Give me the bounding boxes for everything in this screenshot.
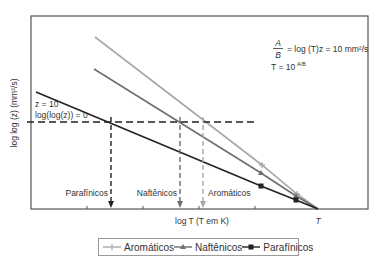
legend-label: Parafínicos: [263, 242, 313, 253]
arrow-down-icon: [177, 201, 183, 208]
square-marker-icon: [242, 243, 260, 251]
legend-item-parafinicos: Parafínicos: [242, 242, 313, 253]
x-axis-end-label: T: [315, 216, 321, 226]
legend-item-aromaticos: Aromáticos: [103, 242, 174, 253]
drop-label-aromaticos: Aromáticos: [208, 188, 251, 198]
triangle-marker-icon: [174, 243, 192, 251]
y-axis-label: log log (z) (mm²/s): [9, 78, 19, 147]
square-marker-icon: [259, 184, 264, 189]
square-marker-icon: [294, 198, 299, 203]
formula-rhs: = log (T)z = 10 mm²/s: [287, 44, 368, 54]
arrow-down-icon: [200, 201, 206, 208]
legend-label: Aromáticos: [124, 242, 174, 253]
series-line-naftenicos: [94, 69, 318, 209]
formula-T-exponent: A/B: [297, 61, 306, 67]
formula-numerator: A: [274, 38, 281, 48]
chart-svg: z = 10 log(log(z)) = 0 Parafínicos Naftê…: [0, 0, 380, 265]
formula-denominator: B: [275, 50, 281, 60]
drop-label-naftenicos: Naftênicos: [137, 188, 177, 198]
legend: Aromáticos Naftênicos Parafínicos: [98, 238, 299, 256]
plus-marker-icon: [103, 243, 121, 251]
drop-label-parafinicos: Parafínicos: [65, 188, 108, 198]
ref-label-loglog: log(log(z)) = 0: [35, 110, 88, 120]
legend-item-naftenicos: Naftênicos: [174, 242, 242, 253]
arrow-down-icon: [108, 201, 114, 208]
series-markers: [258, 162, 300, 203]
formula-T: T = 10: [271, 62, 295, 72]
x-axis-label: log T (T em K): [175, 216, 229, 226]
legend-label: Naftênicos: [195, 242, 242, 253]
ref-label-z: z = 10: [35, 99, 59, 109]
